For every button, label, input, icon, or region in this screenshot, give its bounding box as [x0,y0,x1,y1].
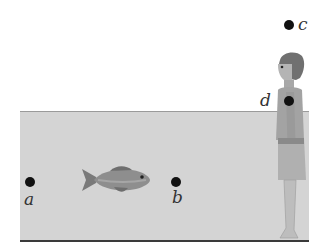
point-c-label: c [298,14,308,34]
point-d-dot [284,96,294,106]
point-a-dot [25,177,35,187]
fish-icon [80,163,152,195]
person-figure [270,50,310,242]
point-b-dot [171,177,181,187]
point-b-label: b [172,187,183,207]
water-region [20,111,309,241]
point-d-label: d [260,90,271,110]
floor-line [20,240,309,242]
point-a-label: a [24,189,34,209]
point-c-dot [284,20,294,30]
